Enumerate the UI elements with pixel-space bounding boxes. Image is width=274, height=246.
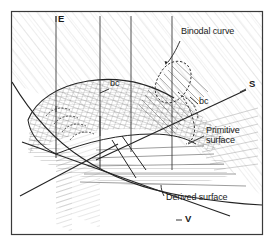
diagram-canvas [0, 0, 274, 246]
lower-vertical-hatch-band [56, 150, 72, 232]
axis-label-E: E [58, 14, 64, 24]
annotation-derived-surface: Derived surface [166, 193, 228, 203]
axis-label-S: S [249, 79, 255, 89]
annotation-bc-left: bc [110, 79, 119, 89]
phase-diagram-figure: E S V Binodal curve bc bc Primitive surf… [0, 0, 274, 246]
axis-label-V: V [185, 214, 191, 224]
annotation-bc-right: bc [199, 97, 208, 107]
annotation-binodal-curve: Binodal curve [181, 27, 234, 37]
annotation-primitive-surface: Primitive surface [206, 126, 258, 145]
